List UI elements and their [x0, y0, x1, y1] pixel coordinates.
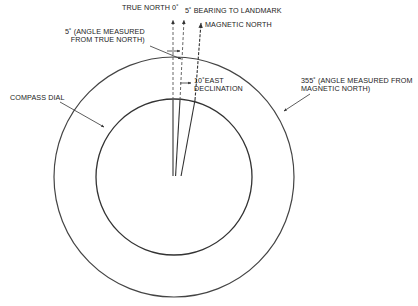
angle-magnetic-leader	[284, 94, 310, 111]
angle-true-line2: FROM TRUE NORTH)	[65, 36, 145, 44]
angle-magnetic-label: 355˚ (ANGLE MEASURED FROM MAGNETIC NORTH…	[301, 77, 413, 94]
angle-magnetic-line2: MAGNETIC NORTH)	[301, 85, 413, 93]
true-north-label: TRUE NORTH 0˚	[122, 4, 179, 12]
compass-diagram	[0, 0, 418, 306]
bearing-line-dashed	[180, 20, 184, 100]
bearing-label: 5˚ BEARING TO LANDMARK	[185, 7, 282, 15]
magnetic-north-label: MAGNETIC NORTH	[205, 21, 272, 29]
compass-dial-label: COMPASS DIAL	[10, 94, 65, 102]
angle-true-label: 5˚ (ANGLE MEASURED FROM TRUE NORTH)	[65, 28, 145, 45]
declination-label: 10˚EAST DECLINATION	[194, 77, 243, 94]
declination-line2: DECLINATION	[194, 85, 243, 93]
